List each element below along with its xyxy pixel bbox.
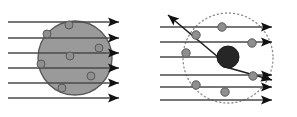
plum-pudding-model-panel xyxy=(8,17,119,102)
electron-4 xyxy=(37,60,45,68)
electron-2 xyxy=(248,39,256,47)
figure-canvas xyxy=(0,0,297,117)
electron-5 xyxy=(87,72,95,80)
nucleus xyxy=(217,46,239,68)
electron-5 xyxy=(192,81,200,89)
nuclear-model-panel xyxy=(160,11,273,104)
electron-6 xyxy=(58,84,66,92)
electron-1 xyxy=(218,23,226,31)
electron-0 xyxy=(192,31,200,39)
electron-0 xyxy=(65,21,73,29)
electron-6 xyxy=(221,88,229,96)
electron-4 xyxy=(249,72,257,80)
electron-2 xyxy=(95,44,103,52)
electron-1 xyxy=(43,30,51,38)
scattering-diagram-figure xyxy=(0,0,297,117)
electron-3 xyxy=(182,49,190,57)
electron-3 xyxy=(66,52,74,60)
